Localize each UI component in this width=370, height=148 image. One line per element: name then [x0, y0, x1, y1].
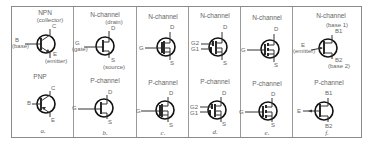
caption-f: f.: [325, 129, 329, 137]
p-mosfet-icon: [141, 97, 174, 122]
c-drain-label: D: [170, 24, 175, 30]
f-emitter-note: (emitter): [293, 48, 315, 54]
source-label: S: [111, 57, 115, 63]
transistor-symbol-table: NPN (collector) C B (base) E (emitter) P…: [11, 6, 362, 138]
n-dual-gate-mosfet-icon: [201, 32, 227, 60]
drain-label: D: [111, 25, 116, 31]
p-depletion-mosfet-icon: [245, 98, 277, 122]
e-gate-label: G: [241, 47, 246, 53]
n-ujt-icon: [311, 35, 337, 59]
ujt-symbols: N-channel (base 1) B1 E (emitter) B2 (ba…: [293, 7, 363, 139]
e-p-source-label: S: [271, 122, 275, 128]
column-a-bjt: NPN (collector) C B (base) E (emitter) P…: [12, 7, 74, 137]
mosfet-e-symbols: N-channel D G S P-channel D G S: [241, 7, 293, 139]
collector-label: C: [52, 23, 57, 29]
b-p-channel-label: P-channel: [90, 77, 120, 84]
mosfet-symbols: N-channel D G S P-channel D G S: [137, 7, 189, 139]
base2-note: (base 2): [328, 63, 350, 69]
pnp-transistor-icon: [32, 91, 55, 117]
e-n-channel-label: N-channel: [252, 14, 282, 21]
p-dual-gate-mosfet-icon: [200, 97, 226, 122]
d-gate1-label: G1: [191, 46, 200, 52]
n-mosfet-icon: [145, 32, 175, 60]
c-n-channel-label: N-channel: [148, 13, 178, 20]
source-note: (source): [103, 64, 125, 70]
f-p-channel-label: P-channel: [314, 79, 344, 86]
d-n-channel-label: N-channel: [200, 12, 230, 19]
b-p-source-label: S: [108, 119, 112, 125]
base1-label: B1: [335, 28, 343, 34]
c-p-source-label: S: [169, 122, 173, 128]
e-p-drain-label: D: [271, 91, 276, 97]
column-f-ujt: N-channel (base 1) B1 E (emitter) B2 (ba…: [293, 7, 363, 137]
c-p-channel-label: P-channel: [148, 79, 178, 86]
collector-note: (collector): [37, 17, 63, 23]
column-b-jfet: N-channel (drain) D G (gate) S (source) …: [74, 7, 137, 137]
p-jfet-icon: [78, 95, 113, 119]
column-e-mosfet: N-channel D G S P-channel D G S: [241, 7, 293, 137]
d-p-source-label: S: [222, 121, 226, 127]
n-depletion-mosfet-icon: [247, 34, 279, 62]
pnp-base-label: B: [27, 100, 31, 106]
caption-d: d.: [212, 128, 218, 136]
bjt-symbols: NPN (collector) C B (base) E (emitter) P…: [12, 7, 74, 139]
c-gate-label: G: [139, 45, 144, 51]
pnp-emitter-label: E: [51, 117, 55, 123]
dual-gate-mosfet-symbols: N-channel D G2 G1 S P-channel D G2 G1: [189, 7, 241, 139]
c-p-drain-label: D: [169, 90, 174, 96]
f-n-channel-label: N-channel: [316, 12, 346, 19]
p-ujt-icon: [303, 98, 333, 122]
pnp-collector-label: C: [51, 85, 56, 91]
d-p-gate1-label: G1: [190, 110, 199, 116]
c-source-label: S: [170, 60, 174, 66]
emitter-label: E: [53, 51, 57, 57]
d-p-drain-label: D: [222, 90, 227, 96]
n-jfet-icon: [84, 31, 114, 58]
caption-b: b.: [102, 129, 108, 137]
npn-transistor-icon: [25, 29, 55, 58]
e-p-gate-label: G: [239, 109, 244, 115]
c-p-gate-label: G: [136, 108, 141, 114]
f-p-emitter-label: E: [297, 108, 301, 114]
column-c-mosfet: N-channel D G S P-channel D G S: [137, 7, 189, 137]
caption-a: a.: [40, 127, 46, 135]
caption-e: e.: [265, 129, 270, 137]
pnp-label: PNP: [33, 73, 46, 80]
f-p-base1-label: B1: [325, 90, 333, 96]
e-p-channel-label: P-channel: [252, 80, 282, 87]
b-p-gate-label: G: [72, 105, 77, 111]
d-source-label: S: [223, 60, 227, 66]
emitter-note: (emitter): [45, 58, 67, 64]
b-n-channel-label: N-channel: [90, 11, 120, 18]
caption-c: c.: [161, 129, 166, 137]
e-drain-label: D: [274, 26, 279, 32]
jfet-symbols: N-channel (drain) D G (gate) S (source) …: [74, 7, 137, 139]
npn-label: NPN: [38, 9, 52, 16]
e-source-label: S: [274, 62, 278, 68]
d-p-channel-label: P-channel: [200, 78, 230, 85]
b-p-drain-label: D: [108, 89, 113, 95]
column-d-dual-gate-mosfet: N-channel D G2 G1 S P-channel D G2 G1: [189, 7, 241, 137]
d-drain-label: D: [223, 24, 228, 30]
